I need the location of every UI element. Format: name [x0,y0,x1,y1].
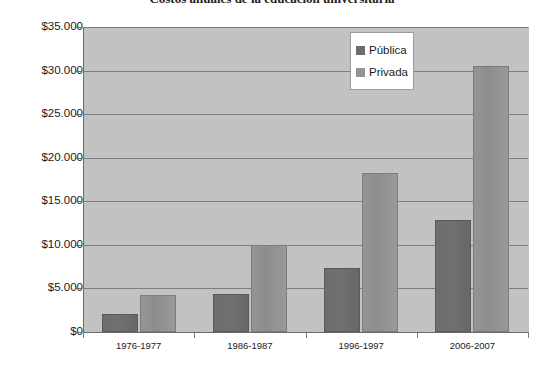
chart-legend: PúblicaPrivada [350,32,414,90]
x-axis-tick-label: 1976-1977 [83,340,194,351]
y-axis-tick-label: $20.000 [11,152,83,163]
legend-entry-privada: Privada [356,61,413,83]
y-axis-tick-mark [76,71,82,72]
y-axis-tick-mark [76,201,82,202]
x-axis-tick-mark [306,333,307,338]
bar-privada-1976-1977 [140,295,176,332]
legend-entry-publica: Pública [356,39,413,61]
gridline [83,158,528,159]
y-axis-tick-mark [76,332,82,333]
legend-label: Privada [369,66,408,78]
y-axis-tick-mark [76,114,82,115]
bar-privada-2006-2007 [473,66,509,332]
y-axis-tick-label: $30.000 [11,65,83,76]
legend-swatch-icon [356,46,365,55]
y-axis-tick-label: $10.000 [11,239,83,250]
y-axis-tick-mark [76,245,82,246]
x-axis-tick-label: 2006-2007 [417,340,528,351]
bar-publica-1986-1987 [213,294,249,332]
gridline [83,71,528,72]
x-axis-tick-label: 1986-1987 [194,340,305,351]
x-axis-tick-mark [194,333,195,338]
x-axis-tick-label: 1996-1997 [306,340,417,351]
y-axis-tick-label: $35.000 [11,21,83,32]
gridline [83,27,528,28]
bar-publica-2006-2007 [435,220,471,332]
bar-publica-1976-1977 [102,314,138,332]
y-axis-tick-label: $5.000 [11,282,83,293]
legend-label: Pública [369,44,407,56]
x-axis-tick-mark [528,333,529,338]
y-axis-tick-mark [76,288,82,289]
gridline [83,114,528,115]
legend-swatch-icon [356,68,365,77]
y-axis-tick-label: $0 [11,326,83,337]
y-axis-tick-label: $15.000 [11,195,83,206]
bar-publica-1996-1997 [324,268,360,332]
y-axis-tick-mark [76,27,82,28]
gridline [83,201,528,202]
y-axis: $35.000$30.000$25.000$20.000$15.000$10.0… [0,0,83,375]
bar-privada-1996-1997 [362,173,398,332]
bar-privada-1986-1987 [251,245,287,332]
x-axis-tick-mark [417,333,418,338]
x-axis-tick-mark [83,333,84,338]
y-axis-tick-label: $25.000 [11,108,83,119]
bar-chart: Costos anuales de la educación universit… [0,0,544,375]
y-axis-tick-mark [76,158,82,159]
